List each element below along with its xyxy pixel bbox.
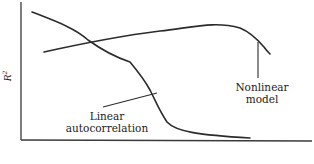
annotation-linear-line1: Linear: [57, 110, 157, 122]
leader-line-linear: [103, 93, 157, 107]
series-nonlinear-model: [44, 25, 270, 54]
annotation-linear-autocorrelation: Linear autocorrelation: [57, 110, 157, 134]
annotation-nonlinear-line2: model: [230, 93, 294, 105]
annotation-nonlinear-line1: Nonlinear: [230, 81, 294, 93]
annotation-linear-line2: autocorrelation: [57, 122, 157, 134]
annotation-nonlinear-model: Nonlinear model: [230, 81, 294, 105]
x-axis: [21, 140, 312, 141]
y-axis-label: R2: [1, 71, 13, 82]
